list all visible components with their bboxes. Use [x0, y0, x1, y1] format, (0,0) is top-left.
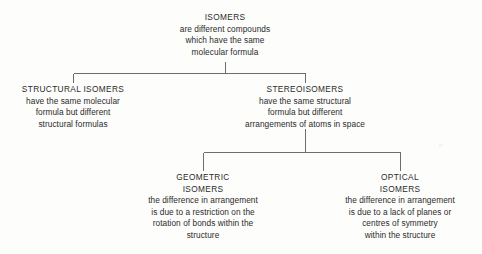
node-stereoisomers-line-1: have the same structural	[198, 96, 412, 108]
node-stereoisomers-line-2: formula but different	[198, 107, 412, 119]
node-geometric-isomers-body: the difference in arrangement is due to …	[118, 195, 288, 241]
node-stereoisomers: STEREOISOMERS have the same structural f…	[198, 84, 412, 130]
node-structural-isomers-line-1: have the same molecular	[0, 96, 146, 108]
node-geometric-isomers-line-4: structure	[118, 230, 288, 242]
node-isomers-line-2: which have the same	[125, 35, 325, 47]
node-stereoisomers-line-3: arrangements of atoms in space	[198, 119, 412, 131]
node-stereoisomers-heading: STEREOISOMERS	[198, 84, 412, 96]
node-optical-isomers-heading: OPTICAL	[315, 172, 482, 184]
node-geometric-isomers: GEOMETRIC ISOMERS the difference in arra…	[118, 172, 288, 242]
isomers-diagram: ISOMERS are different compounds which ha…	[0, 0, 482, 254]
node-geometric-isomers-heading-2: ISOMERS	[118, 184, 288, 196]
node-geometric-isomers-line-3: rotation of bonds within the	[118, 218, 288, 230]
node-structural-isomers: STRUCTURAL ISOMERS have the same molecul…	[0, 84, 146, 130]
scan-artifact-mark: ::	[439, 143, 444, 148]
node-isomers: ISOMERS are different compounds which ha…	[125, 12, 325, 58]
node-optical-isomers-line-3: centres of symmetry	[315, 218, 482, 230]
node-optical-isomers-line-1: the difference in arrangement	[315, 195, 482, 207]
node-optical-isomers: OPTICAL ISOMERS the difference in arrang…	[315, 172, 482, 242]
node-optical-isomers-line-2: is due to a lack of planes or	[315, 207, 482, 219]
node-optical-isomers-heading-2: ISOMERS	[315, 184, 482, 196]
node-structural-isomers-body: have the same molecular formula but diff…	[0, 96, 146, 131]
node-optical-isomers-line-4: within the structure	[315, 230, 482, 242]
node-structural-isomers-line-2: formula but different	[0, 107, 146, 119]
node-geometric-isomers-line-1: the difference in arrangement	[118, 195, 288, 207]
node-geometric-isomers-heading: GEOMETRIC	[118, 172, 288, 184]
node-structural-isomers-heading: STRUCTURAL ISOMERS	[0, 84, 146, 96]
node-geometric-isomers-line-2: is due to a restriction on the	[118, 207, 288, 219]
node-isomers-body: are different compounds which have the s…	[125, 24, 325, 59]
node-structural-isomers-line-3: structural formulas	[0, 119, 146, 131]
node-stereoisomers-body: have the same structural formula but dif…	[198, 96, 412, 131]
node-isomers-heading: ISOMERS	[125, 12, 325, 24]
node-isomers-line-3: molecular formula	[125, 47, 325, 59]
node-isomers-line-1: are different compounds	[125, 24, 325, 36]
node-optical-isomers-body: the difference in arrangement is due to …	[315, 195, 482, 241]
